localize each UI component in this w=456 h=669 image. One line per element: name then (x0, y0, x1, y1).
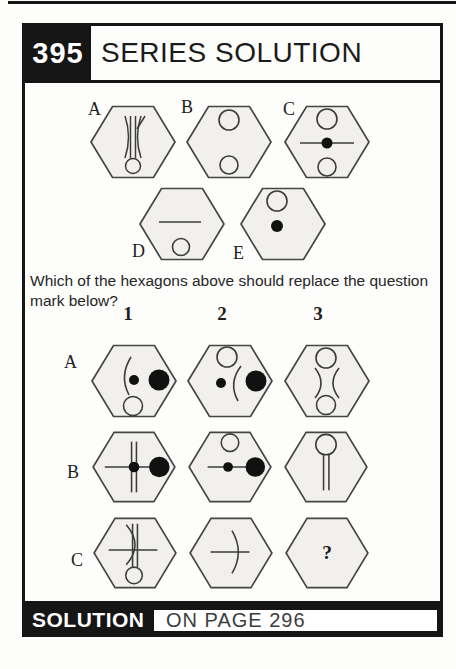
hexagon-b2-icon (187, 430, 273, 504)
hexagon-c3-question-icon: ? (284, 516, 370, 590)
hexagon-option-e-icon (240, 186, 326, 262)
page-top-strip (8, 1, 456, 4)
hexagon-b1-icon (91, 430, 177, 504)
hexagon-a2-icon (187, 342, 273, 420)
hexagon-a1-icon (91, 342, 177, 420)
hexagon-b3-icon (283, 430, 369, 504)
option-hexagon-d (139, 186, 225, 262)
option-hexagon-b (186, 104, 272, 180)
grid-column-header-3: 3 (310, 303, 326, 325)
grid-row-label-b: B (67, 462, 79, 483)
hexagon-a3-icon (284, 342, 370, 420)
question-mark: ? (322, 542, 332, 563)
option-hexagon-c (284, 104, 370, 180)
grid-hexagon-c3-question: ? (284, 516, 370, 592)
grid-hexagon-b3 (283, 430, 369, 506)
grid-hexagon-b1 (91, 430, 177, 506)
grid-hexagon-c1 (92, 516, 178, 592)
option-label-e: E (233, 243, 244, 264)
hexagon-option-a-icon (90, 104, 176, 180)
grid-column-header-1: 1 (120, 303, 136, 325)
header: 395 SERIES SOLUTION (25, 26, 440, 83)
grid-hexagon-a2 (187, 342, 273, 418)
grid-row-label-a: A (64, 352, 77, 373)
puzzle-number-badge: 395 (25, 26, 91, 80)
grid-hexagon-b2 (187, 430, 273, 506)
solution-label: SOLUTION (32, 608, 145, 632)
grid-hexagon-c2 (188, 516, 274, 592)
hexagon-c2-icon (188, 516, 274, 590)
page-title: SERIES SOLUTION (91, 26, 440, 80)
solution-page-reference: ON PAGE 296 (152, 608, 439, 633)
grid-hexagon-a3 (284, 342, 370, 418)
hexagon-option-c-icon (284, 104, 370, 180)
option-hexagon-a (90, 104, 176, 180)
question-text: Which of the hexagons above should repla… (30, 271, 432, 311)
hexagon-option-b-icon (186, 104, 272, 180)
footer-bar: SOLUTION ON PAGE 296 (22, 604, 443, 637)
option-label-d: D (132, 241, 145, 262)
option-hexagon-e (240, 186, 326, 262)
grid-column-header-2: 2 (214, 303, 230, 325)
grid-hexagon-a1 (91, 342, 177, 418)
hexagon-option-d-icon (139, 186, 225, 262)
hexagon-c1-icon (92, 516, 178, 590)
grid-row-label-c: C (71, 550, 83, 571)
